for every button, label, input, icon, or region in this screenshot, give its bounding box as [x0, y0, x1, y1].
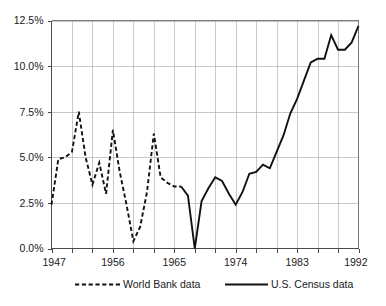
grid-lines	[52, 21, 359, 249]
x-axis-tick-label: 1965	[163, 256, 187, 268]
axis-ticks	[48, 22, 360, 253]
series-line-2	[181, 26, 358, 249]
data-series	[52, 26, 359, 249]
series-line-1	[52, 112, 182, 242]
chart-container: 0.0%2.5%5.0%7.5%10.0%12.5% 1947195619651…	[0, 0, 386, 306]
x-axis-tick-label: 1974	[224, 256, 248, 268]
y-axis-tick-label: 10.0%	[14, 60, 44, 72]
plot-frame	[52, 21, 359, 249]
y-axis-tick-labels: 0.0%2.5%5.0%7.5%10.0%12.5%	[14, 14, 44, 254]
legend-label-2: U.S. Census data	[271, 278, 353, 290]
y-axis-tick-label: 7.5%	[20, 106, 44, 118]
chart-legend: World Bank dataU.S. Census data	[75, 278, 353, 290]
x-axis-tick-label: 1947	[43, 256, 67, 268]
x-axis-tick-label: 1992	[344, 256, 368, 268]
legend-label-1: World Bank data	[123, 278, 201, 290]
y-axis-tick-label: 0.0%	[20, 242, 44, 254]
line-chart: 0.0%2.5%5.0%7.5%10.0%12.5% 1947195619651…	[0, 0, 386, 306]
y-axis-tick-label: 5.0%	[20, 151, 44, 163]
y-axis-tick-label: 2.5%	[20, 197, 44, 209]
x-axis-tick-labels: 194719561965197419831992	[43, 256, 368, 268]
x-axis-tick-label: 1983	[285, 256, 309, 268]
x-axis-tick-label: 1956	[101, 256, 125, 268]
y-axis-tick-label: 12.5%	[14, 14, 44, 26]
